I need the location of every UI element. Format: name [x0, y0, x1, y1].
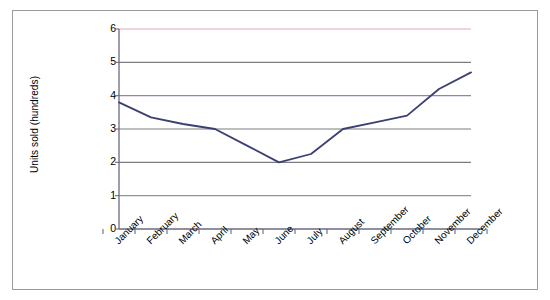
chart-frame: Units sold (hundreds) 0123456 JanuaryFeb… — [12, 10, 538, 290]
line-chart-svg — [13, 11, 539, 291]
plot-area: Units sold (hundreds) 0123456 JanuaryFeb… — [13, 11, 539, 291]
x-axis-ticks — [103, 229, 487, 234]
gridlines — [119, 29, 471, 196]
data-series-group — [119, 72, 471, 162]
series-line — [119, 72, 471, 162]
